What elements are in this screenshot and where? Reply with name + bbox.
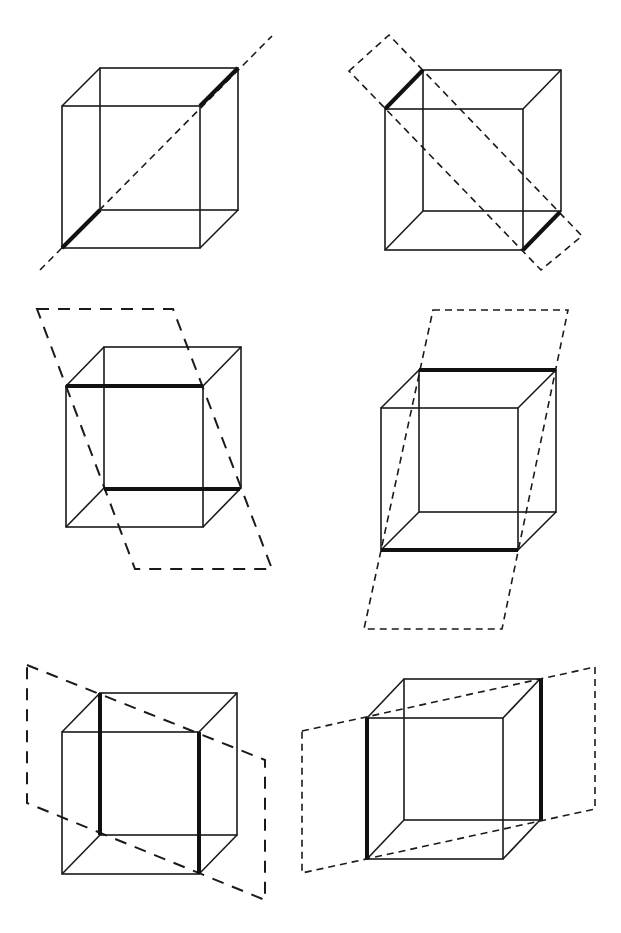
- cube-depth-edge: [203, 488, 241, 527]
- cutting-plane: [37, 309, 272, 569]
- cube-depth-edge: [523, 70, 561, 109]
- cube-panel-6: [302, 667, 595, 873]
- cube-depth-edge: [199, 835, 237, 874]
- cutting-plane: [364, 310, 568, 629]
- cube-depth-edge: [62, 835, 100, 874]
- cube-depth-edge: [381, 512, 419, 550]
- highlighted-edge: [523, 212, 560, 250]
- cube-depth-edge: [66, 347, 104, 386]
- cube-depth-edge: [200, 210, 238, 248]
- cube-diagram: [0, 0, 621, 933]
- cube-depth-edge: [385, 211, 423, 250]
- cube-depth-edge: [518, 512, 556, 550]
- cutting-plane: [302, 667, 595, 873]
- cube-depth-edge: [62, 693, 100, 732]
- cube-depth-edge: [199, 693, 237, 732]
- cube-depth-edge: [503, 679, 540, 718]
- cube-depth-edge: [62, 68, 100, 106]
- highlighted-edge: [385, 70, 423, 109]
- cube-panel-3: [37, 309, 272, 569]
- cube-depth-edge: [66, 488, 104, 527]
- highlighted-edge: [62, 210, 100, 248]
- highlighted-edge: [200, 68, 238, 106]
- cube-depth-edge: [367, 820, 404, 859]
- cube-panel-5: [27, 665, 265, 900]
- cube-depth-edge: [518, 370, 556, 408]
- cube-depth-edge: [203, 347, 241, 386]
- cube-panel-2: [349, 35, 582, 270]
- cube-panel-1: [40, 36, 272, 270]
- cube-panel-4: [364, 310, 568, 629]
